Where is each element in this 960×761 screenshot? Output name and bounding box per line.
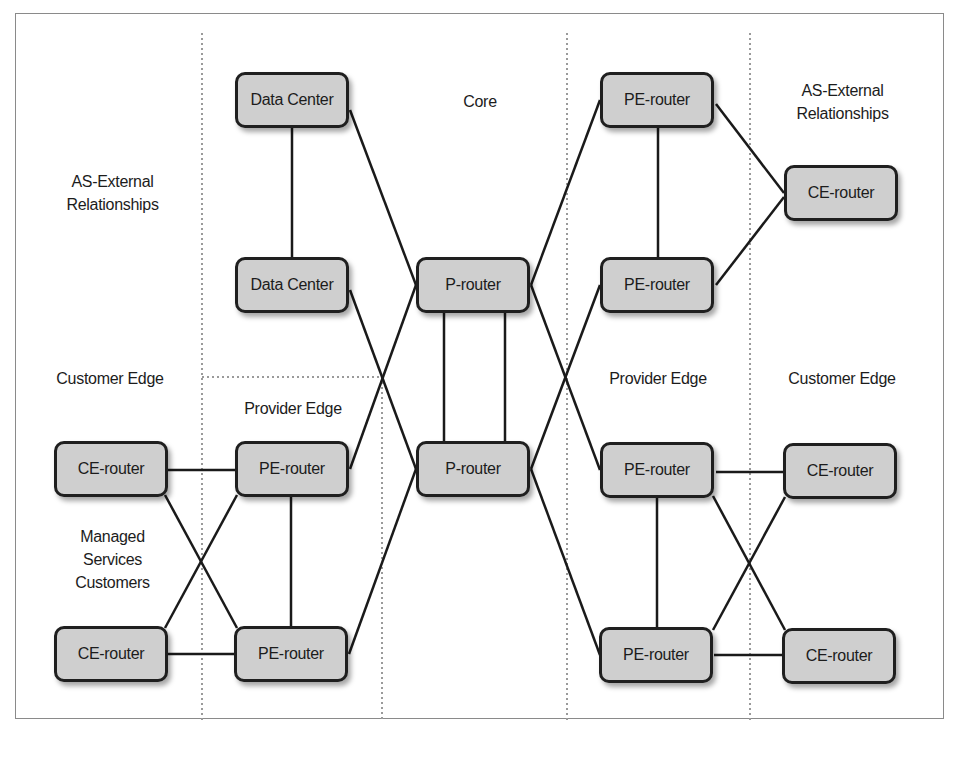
node-p-router-2: P-router <box>416 441 530 497</box>
link-p2-pe-l2 <box>349 469 416 654</box>
label-line: Customers <box>50 571 175 594</box>
zone-label-customer-edge-right: Customer Edge <box>777 367 907 390</box>
link-p2-pe-r2 <box>531 469 600 655</box>
zone-label-provider-edge-left: Provider Edge <box>228 397 358 420</box>
label-line: Managed <box>50 525 175 548</box>
label-line: Relationships <box>780 102 905 125</box>
node-data-center-1: Data Center <box>235 72 349 128</box>
node-ce-router-right-2: CE-router <box>782 628 896 684</box>
node-data-center-2: Data Center <box>235 257 349 313</box>
zone-label-core: Core <box>440 90 520 113</box>
network-topology-diagram: AS-External Relationships Customer Edge … <box>0 0 960 761</box>
node-ce-router-left-1: CE-router <box>54 441 168 497</box>
link-pe-tr2-ce-tr <box>716 197 784 285</box>
node-ce-router-top-right: CE-router <box>784 165 898 221</box>
zone-label-customer-edge-left: Customer Edge <box>45 367 175 390</box>
node-pe-router-left-2: PE-router <box>234 626 348 682</box>
node-p-router-1: P-router <box>416 257 530 313</box>
node-ce-router-right-1: CE-router <box>783 443 897 499</box>
node-pe-router-top-right-1: PE-router <box>600 72 714 128</box>
label-line: Services <box>50 548 175 571</box>
link-p1-pe-tr1 <box>531 100 600 285</box>
zone-label-as-external-left: AS-External Relationships <box>50 170 175 216</box>
node-pe-router-left-1: PE-router <box>235 441 349 497</box>
node-pe-router-right-2: PE-router <box>599 627 713 683</box>
zone-label-provider-edge-right: Provider Edge <box>593 367 723 390</box>
zone-label-managed-services: Managed Services Customers <box>50 525 175 594</box>
zone-label-as-external-right: AS-External Relationships <box>780 79 905 125</box>
label-line: Relationships <box>50 193 175 216</box>
label-line: AS-External <box>780 79 905 102</box>
link-dc1-p1 <box>350 110 416 285</box>
node-ce-router-left-2: CE-router <box>54 626 168 682</box>
label-line: AS-External <box>50 170 175 193</box>
node-pe-router-right-1: PE-router <box>600 442 714 498</box>
node-pe-router-top-right-2: PE-router <box>600 257 714 313</box>
